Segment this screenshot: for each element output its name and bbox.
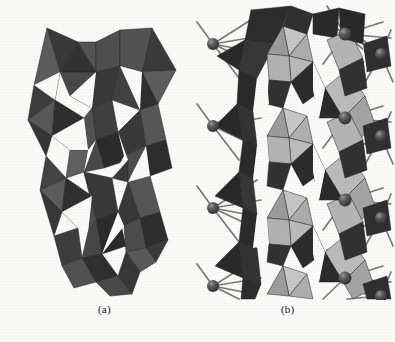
panel-b-structure-with-atoms xyxy=(195,0,395,300)
cation-sphere xyxy=(339,272,352,285)
cation-sphere xyxy=(339,28,352,41)
cation-sphere xyxy=(207,280,219,292)
panel-b-caption: (b) xyxy=(281,303,294,315)
cation-sphere xyxy=(375,130,387,142)
panel-a-caption: (a) xyxy=(98,303,111,315)
panel-b-svg xyxy=(195,0,395,300)
cation-sphere xyxy=(339,194,352,207)
panel-a-svg xyxy=(0,0,200,300)
cation-sphere xyxy=(207,38,219,50)
cation-sphere xyxy=(375,48,387,60)
cation-sphere xyxy=(207,120,219,132)
cation-sphere xyxy=(339,112,352,125)
cation-sphere xyxy=(207,202,219,214)
panel-a-polyhedral-structure xyxy=(0,0,200,300)
cation-sphere xyxy=(375,212,387,224)
figure-container: (a) (b) xyxy=(0,0,395,342)
